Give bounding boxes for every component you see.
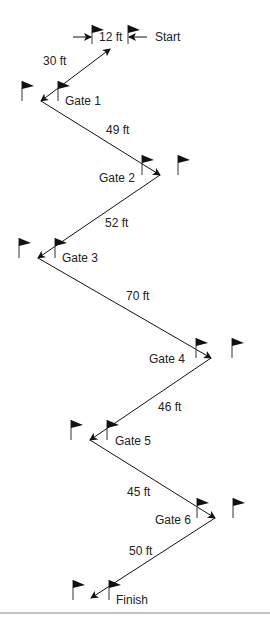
segment-arrow bbox=[38, 258, 211, 358]
gate-label: Gate 1 bbox=[65, 94, 101, 108]
gate: Gate 6 bbox=[155, 498, 245, 527]
gates: Gate 1Gate 2Gate 3Gate 4Gate 5Gate 6 bbox=[19, 81, 245, 527]
distance-label: 45 ft bbox=[127, 485, 151, 499]
start-flag-right-icon bbox=[128, 25, 140, 44]
start-area: 12 ft Start bbox=[73, 25, 181, 44]
flag-icon bbox=[71, 420, 83, 440]
distance-label: 50 ft bbox=[129, 544, 153, 558]
flag-icon bbox=[178, 155, 190, 175]
slalom-course-diagram: 12 ft Start 30 ft49 ft52 ft70 ft46 ft45 … bbox=[0, 0, 270, 626]
distance-label: 46 ft bbox=[158, 400, 182, 414]
gate-label: Gate 2 bbox=[99, 171, 135, 185]
gate-label: Gate 5 bbox=[115, 434, 151, 448]
gate: Gate 1 bbox=[22, 81, 101, 108]
gate: Gate 3 bbox=[19, 238, 98, 265]
start-label: Start bbox=[155, 30, 181, 44]
distance-label: 52 ft bbox=[105, 216, 129, 230]
distance-label: 70 ft bbox=[126, 289, 150, 303]
flag-icon bbox=[22, 81, 34, 101]
distance-label: 30 ft bbox=[43, 54, 67, 68]
finish-label: Finish bbox=[116, 593, 148, 607]
finish-area: Finish bbox=[73, 580, 148, 607]
flag-icon bbox=[232, 338, 244, 358]
gate: Gate 2 bbox=[99, 155, 190, 185]
course-segment: 70 ft bbox=[38, 258, 211, 358]
segment-arrow bbox=[90, 440, 215, 518]
gate-label: Gate 3 bbox=[62, 251, 98, 265]
gate-label: Gate 6 bbox=[155, 513, 191, 527]
flag-icon bbox=[233, 498, 245, 518]
gate-label: Gate 4 bbox=[149, 352, 185, 366]
flag-icon bbox=[19, 238, 31, 258]
finish-flag-left-icon bbox=[73, 580, 85, 600]
distance-label: 49 ft bbox=[106, 123, 130, 137]
gate: Gate 5 bbox=[71, 420, 151, 448]
gate: Gate 4 bbox=[149, 338, 244, 366]
start-gap-label: 12 ft bbox=[99, 30, 123, 44]
course-segment: 45 ft bbox=[90, 440, 215, 518]
